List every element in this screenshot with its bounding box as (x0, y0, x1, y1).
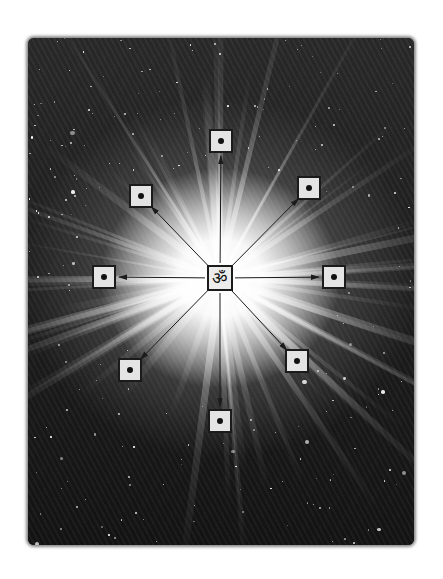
dot-icon (218, 138, 224, 144)
om-symbol-icon: ॐ (212, 270, 228, 287)
arrow-bottom-left (140, 289, 209, 360)
node-left (92, 265, 116, 289)
om-symbol-box: ॐ (207, 265, 233, 291)
node-bottom-right (285, 349, 309, 373)
dot-icon (138, 193, 144, 199)
node-top-left (129, 184, 153, 208)
dot-icon (331, 274, 337, 280)
node-top-right (297, 176, 321, 200)
arrow-right (235, 277, 319, 278)
node-top (209, 129, 233, 153)
arrow-top-right (231, 199, 299, 268)
arrow-bottom-right (230, 289, 287, 350)
dot-icon (101, 274, 107, 280)
node-right (322, 265, 346, 289)
dot-icon (294, 358, 300, 364)
dot-icon (306, 185, 312, 191)
arrow-left (119, 277, 205, 278)
node-bottom-left (118, 358, 142, 382)
dot-icon (217, 418, 223, 424)
arrow-top-left (151, 207, 209, 267)
arrow-top (220, 156, 221, 263)
dot-icon (127, 367, 133, 373)
node-bottom (208, 409, 232, 433)
